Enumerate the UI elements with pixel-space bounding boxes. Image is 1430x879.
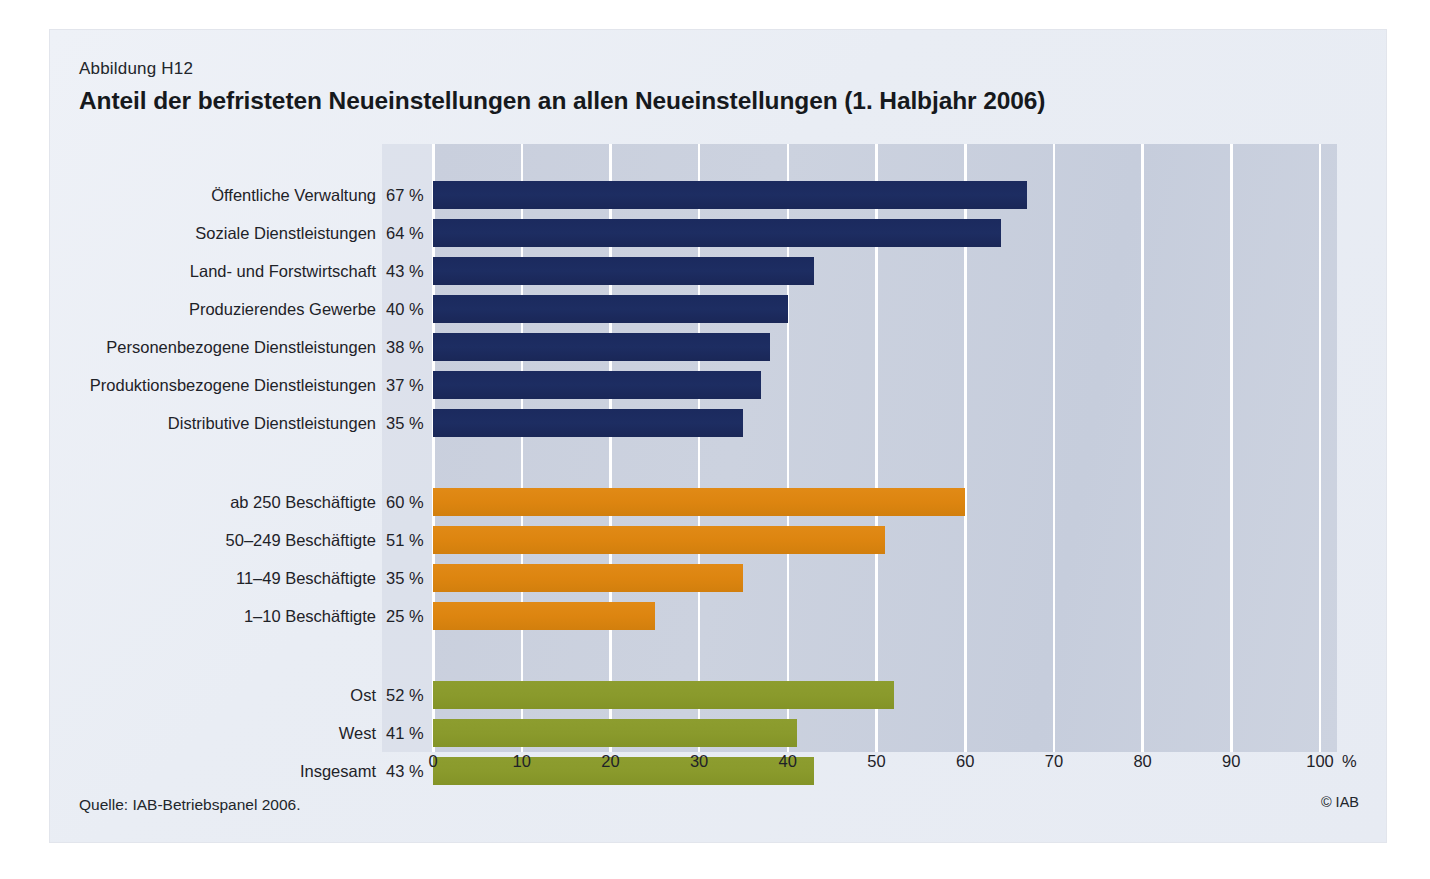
bar-row-value: 40 % — [386, 292, 430, 326]
bar-row-value: 60 % — [386, 485, 430, 519]
source-note: Quelle: IAB-Betriebspanel 2006. — [79, 796, 300, 814]
bar — [433, 333, 770, 361]
bar — [433, 409, 743, 437]
bar-row: Produktionsbezogene Dienstleistungen37 % — [50, 368, 1386, 402]
bar — [433, 371, 761, 399]
bar — [433, 257, 814, 285]
bar-row-label: Ost — [350, 678, 376, 712]
bar-row-label: 1–10 Beschäftigte — [244, 599, 376, 633]
x-tick-0: 0 — [403, 752, 463, 771]
bar-row: Distributive Dienstleistungen35 % — [50, 406, 1386, 440]
copyright-note: © IAB — [1321, 794, 1359, 810]
bar-row-value: 52 % — [386, 678, 430, 712]
bar-row-label: Produzierendes Gewerbe — [189, 292, 376, 326]
bar-row-label: Soziale Dienstleistungen — [195, 216, 376, 250]
x-tick-10: 10 — [492, 752, 552, 771]
figure-number: Abbildung H12 — [79, 59, 193, 79]
bar-row-value: 41 % — [386, 716, 430, 750]
bar-row-value: 67 % — [386, 178, 430, 212]
bar-row: West41 % — [50, 716, 1386, 750]
x-tick-30: 30 — [669, 752, 729, 771]
bar-row-value: 64 % — [386, 216, 430, 250]
bar-row-label: Personenbezogene Dienstleistungen — [106, 330, 376, 364]
bar-row: 1–10 Beschäftigte25 % — [50, 599, 1386, 633]
x-axis: 0102030405060708090100 % — [50, 752, 1386, 786]
bar-row-value: 25 % — [386, 599, 430, 633]
chart-plot-area: Öffentliche Verwaltung67 %Soziale Dienst… — [50, 144, 1386, 752]
x-tick-40: 40 — [758, 752, 818, 771]
bar — [433, 526, 885, 554]
bar — [433, 181, 1027, 209]
figure-panel: Abbildung H12 Anteil der befristeten Neu… — [50, 30, 1386, 842]
x-tick-20: 20 — [580, 752, 640, 771]
bar-row-label: Öffentliche Verwaltung — [211, 178, 376, 212]
bar-row: 11–49 Beschäftigte35 % — [50, 561, 1386, 595]
x-axis-unit-label: % — [1342, 752, 1357, 771]
x-tick-60: 60 — [935, 752, 995, 771]
bar-row-value: 51 % — [386, 523, 430, 557]
bar-row: 50–249 Beschäftigte51 % — [50, 523, 1386, 557]
bar-row: Ost52 % — [50, 678, 1386, 712]
x-tick-100: 100 — [1290, 752, 1350, 771]
bar — [433, 602, 655, 630]
figure-title: Anteil der befristeten Neueinstellungen … — [79, 87, 1045, 115]
bar — [433, 681, 894, 709]
bar-row-label: West — [339, 716, 376, 750]
x-tick-80: 80 — [1113, 752, 1173, 771]
bar-row: ab 250 Beschäftigte60 % — [50, 485, 1386, 519]
bar — [433, 488, 965, 516]
bar-row-value: 38 % — [386, 330, 430, 364]
bar — [433, 564, 743, 592]
x-tick-90: 90 — [1201, 752, 1261, 771]
bar — [433, 719, 797, 747]
bar-row-label: Distributive Dienstleistungen — [168, 406, 376, 440]
bar-row-label: Land- und Forstwirtschaft — [190, 254, 376, 288]
bar-row-value: 35 % — [386, 561, 430, 595]
bar-row-value: 37 % — [386, 368, 430, 402]
bar — [433, 219, 1001, 247]
x-tick-50: 50 — [847, 752, 907, 771]
bar-row-label: 50–249 Beschäftigte — [226, 523, 376, 557]
bar-row-value: 35 % — [386, 406, 430, 440]
bar-row-label: ab 250 Beschäftigte — [230, 485, 376, 519]
bar-row: Soziale Dienstleistungen64 % — [50, 216, 1386, 250]
bar — [433, 295, 788, 323]
x-tick-70: 70 — [1024, 752, 1084, 771]
bar-row-label: Produktionsbezogene Dienstleistungen — [90, 368, 376, 402]
bar-row: Produzierendes Gewerbe40 % — [50, 292, 1386, 326]
bar-row-value: 43 % — [386, 254, 430, 288]
bar-row: Personenbezogene Dienstleistungen38 % — [50, 330, 1386, 364]
bar-row: Öffentliche Verwaltung67 % — [50, 178, 1386, 212]
bar-row-label: 11–49 Beschäftigte — [236, 561, 376, 595]
bar-row: Land- und Forstwirtschaft43 % — [50, 254, 1386, 288]
